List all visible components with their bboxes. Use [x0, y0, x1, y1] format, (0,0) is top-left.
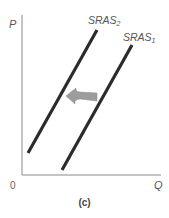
x-axis-label: Q — [154, 179, 163, 191]
origin-label: 0 — [10, 180, 16, 191]
y-axis-label: P — [9, 18, 17, 30]
figure-caption: (c) — [78, 197, 90, 208]
sras2-curve — [28, 30, 97, 153]
sras1-curve — [62, 45, 132, 170]
sras2-label: SRAS2 — [88, 14, 121, 27]
sras2-label-subscript: 2 — [116, 20, 121, 27]
shift-left-arrow-icon — [66, 88, 97, 104]
sras1-label-name: SRAS — [123, 31, 152, 43]
sras1-label: SRAS1 — [123, 31, 156, 44]
sras2-label-name: SRAS — [88, 14, 117, 26]
srass-shift-diagram: P Q 0 SRAS2 SRAS1 (c) — [0, 0, 169, 218]
sras1-label-subscript: 1 — [152, 37, 156, 44]
